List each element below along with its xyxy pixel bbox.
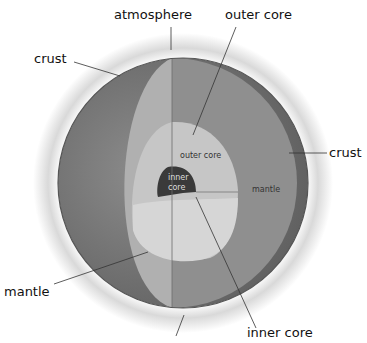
label-inner-core: inner core <box>247 325 313 340</box>
label-atmosphere: atmosphere <box>114 7 192 22</box>
label-crust-right: crust <box>329 145 362 160</box>
label-outer-core: outer core <box>225 7 292 22</box>
inner-core-label-line1: inner <box>168 173 189 182</box>
label-mantle: mantle <box>4 284 50 299</box>
inner-core-label-line2: core <box>168 183 185 192</box>
label-crust-left: crust <box>34 51 67 66</box>
mantle-inner-label: mantle <box>252 185 280 194</box>
outer-core-inner-label: outer core <box>180 151 221 160</box>
